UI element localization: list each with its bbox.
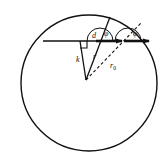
diagram-svg: dφφkrr0 (0, 0, 168, 168)
label-k: k (76, 55, 80, 64)
angle-arc-first (87, 28, 113, 41)
label-phi-1: φ (104, 29, 109, 38)
figure-container: dφφkrr0 (0, 0, 168, 168)
label-r0: r0 (110, 61, 116, 71)
label-phi-2: φ (133, 29, 138, 38)
label-d: d (92, 31, 97, 40)
vertical-segment-k (80, 41, 86, 80)
ray-r-solid (86, 17, 110, 80)
